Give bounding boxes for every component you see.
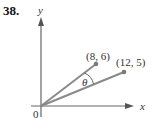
point-label-12-5: (12, 5) bbox=[116, 56, 146, 69]
vector-8-6 bbox=[41, 64, 96, 106]
angle-label: θ bbox=[82, 76, 88, 88]
x-axis-arrow-icon bbox=[125, 103, 134, 109]
problem-number: 38. bbox=[3, 3, 19, 18]
point-8-6 bbox=[94, 62, 99, 67]
y-axis-label: y bbox=[37, 4, 43, 16]
point-label-8-6: (8, 6) bbox=[86, 50, 110, 63]
x-axis-label: x bbox=[139, 100, 145, 112]
y-axis-arrow-icon bbox=[38, 17, 44, 26]
origin-label: 0 bbox=[33, 108, 39, 120]
vector-angle-diagram: 38. y x 0 (8, 6) (12, 5) θ bbox=[0, 0, 155, 126]
point-12-5 bbox=[122, 70, 127, 75]
